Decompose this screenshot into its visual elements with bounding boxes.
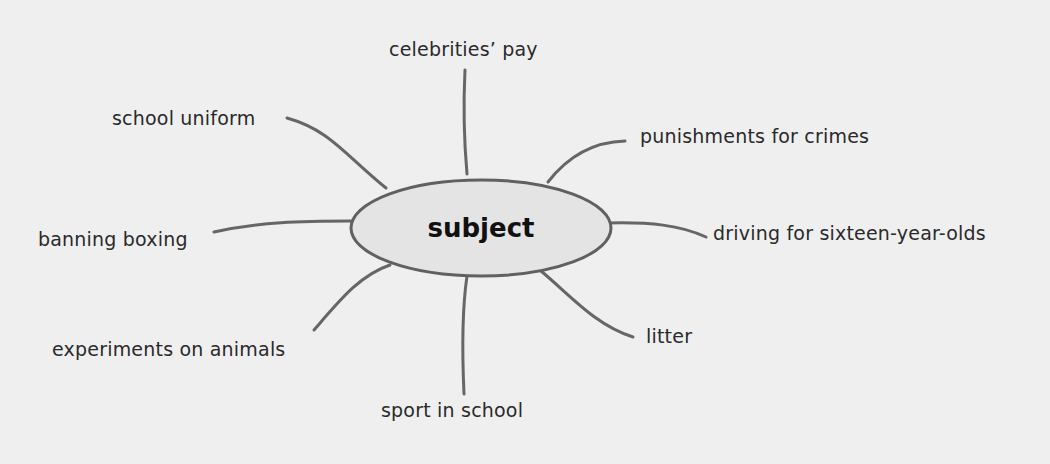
- connector-sport: [463, 276, 467, 394]
- connector-punishments: [548, 141, 625, 182]
- branch-driving-for-sixteen-year-olds: driving for sixteen-year-olds: [713, 222, 986, 244]
- branch-school-uniform: school uniform: [112, 107, 255, 129]
- connector-banning-boxing: [214, 221, 352, 232]
- branch-experiments-on-animals: experiments on animals: [52, 338, 285, 360]
- center-node: subject: [350, 185, 612, 271]
- branch-sport-in-school: sport in school: [381, 399, 523, 421]
- connector-school-uniform: [287, 118, 386, 188]
- mind-map: subject celebrities’ pay school uniform …: [0, 0, 1050, 464]
- connector-experiments: [314, 265, 390, 330]
- branch-punishments-for-crimes: punishments for crimes: [640, 125, 869, 147]
- branch-litter: litter: [646, 325, 692, 347]
- branch-celebrities-pay: celebrities’ pay: [389, 38, 538, 60]
- connector-litter: [541, 271, 633, 337]
- connector-celebrities-pay: [464, 70, 467, 174]
- branch-banning-boxing: banning boxing: [38, 228, 188, 250]
- connector-driving: [608, 223, 706, 237]
